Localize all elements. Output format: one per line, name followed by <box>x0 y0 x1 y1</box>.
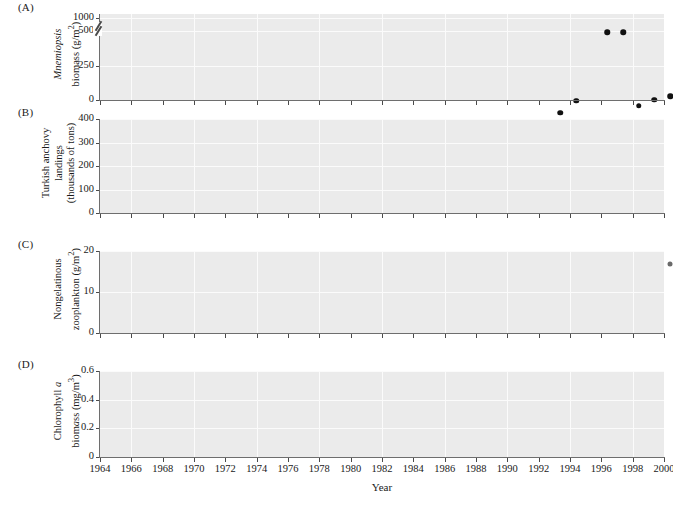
y-tick-label: 0 <box>52 450 94 461</box>
yaxis-title-D: Chlorophyll abiomass (mg/m3) <box>52 365 82 457</box>
x-tick <box>633 458 634 462</box>
x-tick-label: 1978 <box>309 463 330 474</box>
panel-D: (D)Chlorophyll abiomass (mg/m3)00.20.40.… <box>0 0 673 508</box>
x-tick <box>194 458 195 462</box>
y-axis-line <box>99 371 100 458</box>
x-tick-label: 1988 <box>466 463 487 474</box>
vertical-gridline <box>633 371 634 457</box>
x-tick-label: 1998 <box>622 463 643 474</box>
horizontal-gridline <box>100 428 664 429</box>
x-tick <box>601 458 602 462</box>
x-tick <box>319 458 320 462</box>
x-tick <box>539 458 540 462</box>
x-tick <box>351 458 352 462</box>
x-tick-label: 1982 <box>372 463 393 474</box>
x-tick-label: 1966 <box>121 463 142 474</box>
x-tick-label: 1994 <box>560 463 581 474</box>
x-tick-label: 1984 <box>403 463 424 474</box>
x-tick <box>664 458 665 462</box>
x-tick <box>413 458 414 462</box>
x-tick <box>163 458 164 462</box>
vertical-gridline <box>194 371 195 457</box>
vertical-gridline <box>382 371 383 457</box>
x-tick <box>131 458 132 462</box>
y-tick-label: 0.2 <box>52 421 94 432</box>
vertical-gridline <box>257 371 258 457</box>
x-tick-label: 1996 <box>591 463 612 474</box>
x-tick <box>225 458 226 462</box>
vertical-gridline <box>319 371 320 457</box>
x-tick-label: 1986 <box>434 463 455 474</box>
x-tick-label: 2000 <box>654 463 673 474</box>
x-tick-label: 1968 <box>152 463 173 474</box>
x-tick <box>445 458 446 462</box>
vertical-gridline <box>570 371 571 457</box>
horizontal-gridline <box>100 371 664 372</box>
x-tick-label: 1964 <box>90 463 111 474</box>
x-tick <box>257 458 258 462</box>
x-tick <box>570 458 571 462</box>
panel-label-D: (D) <box>18 358 34 370</box>
x-tick <box>382 458 383 462</box>
vertical-gridline <box>445 371 446 457</box>
x-tick <box>288 458 289 462</box>
x-tick <box>476 458 477 462</box>
x-tick-label: 1980 <box>340 463 361 474</box>
y-tick-label: 0.6 <box>52 364 94 375</box>
plot-area-D <box>100 371 664 457</box>
vertical-gridline <box>507 371 508 457</box>
x-tick <box>100 458 101 462</box>
x-tick-label: 1974 <box>246 463 267 474</box>
figure-container: (A)Mnemiopsisbiomass (g/m2)02505001000(B… <box>0 0 673 508</box>
x-tick-label: 1990 <box>497 463 518 474</box>
x-axis-title: Year <box>372 481 392 493</box>
y-tick-label: 0.4 <box>52 393 94 404</box>
horizontal-gridline <box>100 400 664 401</box>
x-tick <box>507 458 508 462</box>
vertical-gridline <box>131 371 132 457</box>
x-tick-label: 1970 <box>184 463 205 474</box>
x-tick-label: 1992 <box>528 463 549 474</box>
x-tick-label: 1972 <box>215 463 236 474</box>
x-tick-label: 1976 <box>278 463 299 474</box>
